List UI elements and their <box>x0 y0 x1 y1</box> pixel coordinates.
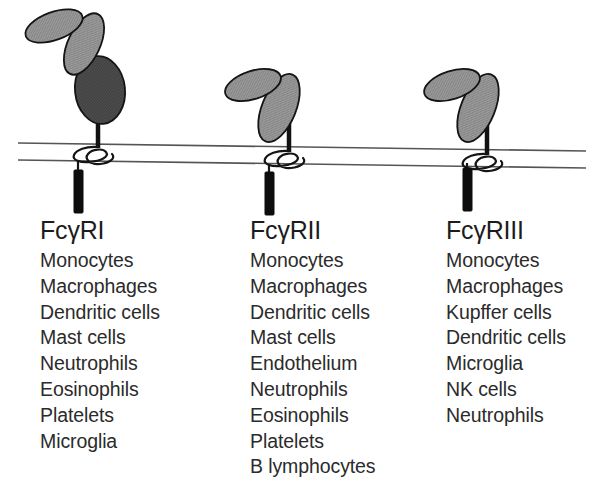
legend-column-fc-gamma-r3: FcγRIII Monocytes Macrophages Kupffer ce… <box>446 216 566 429</box>
list-item: Mast cells <box>40 325 160 351</box>
receptor-label-prefix-r1: Fc <box>40 216 67 244</box>
list-item: Neutrophils <box>446 403 566 429</box>
list-item: Macrophages <box>40 274 160 300</box>
receptor-label-fc-gamma-r3: FcγRIII <box>446 216 566 244</box>
fc-gamma-receptor-figure: FcγRI Monocytes Macrophages Dendritic ce… <box>0 0 590 491</box>
cell-type-list-r1: Monocytes Macrophages Dendritic cells Ma… <box>40 248 160 454</box>
receptor-label-prefix-r2: Fc <box>250 216 277 244</box>
list-item: Neutrophils <box>250 377 376 403</box>
list-item: NK cells <box>446 377 566 403</box>
list-item: Monocytes <box>446 248 566 274</box>
legend-column-fc-gamma-r1: FcγRI Monocytes Macrophages Dendritic ce… <box>40 216 160 454</box>
receptor-label-fc-gamma-r1: FcγRI <box>40 216 160 244</box>
list-item: Macrophages <box>250 274 376 300</box>
list-item: Platelets <box>250 429 376 455</box>
list-item: Dendritic cells <box>446 325 566 351</box>
legend-column-fc-gamma-r2: FcγRII Monocytes Macrophages Dendritic c… <box>250 216 376 480</box>
receptor-label-prefix-r3: Fc <box>446 216 473 244</box>
list-item: B lymphocytes <box>250 454 376 480</box>
cell-type-list-r2: Monocytes Macrophages Dendritic cells Ma… <box>250 248 376 480</box>
cell-type-list-r3: Monocytes Macrophages Kupffer cells Dend… <box>446 248 566 429</box>
list-item: Eosinophils <box>250 403 376 429</box>
list-item: Neutrophils <box>40 351 160 377</box>
list-item: Macrophages <box>446 274 566 300</box>
list-item: Dendritic cells <box>40 300 160 326</box>
list-item: Microglia <box>40 429 160 455</box>
receptor-label-fc-gamma-r2: FcγRII <box>250 216 376 244</box>
gamma-glyph-r2: γ <box>277 216 289 244</box>
receptor-label-suffix-r3: RIII <box>486 216 524 244</box>
list-item: Platelets <box>40 403 160 429</box>
list-item: Mast cells <box>250 325 376 351</box>
gamma-glyph-r3: γ <box>473 216 485 244</box>
receptor-label-suffix-r2: RII <box>290 216 321 244</box>
list-item: Microglia <box>446 351 566 377</box>
legend-columns: FcγRI Monocytes Macrophages Dendritic ce… <box>0 0 590 491</box>
list-item: Monocytes <box>40 248 160 274</box>
list-item: Kupffer cells <box>446 300 566 326</box>
list-item: Dendritic cells <box>250 300 376 326</box>
gamma-glyph-r1: γ <box>67 216 79 244</box>
list-item: Eosinophils <box>40 377 160 403</box>
list-item: Monocytes <box>250 248 376 274</box>
receptor-label-suffix-r1: RI <box>80 216 105 244</box>
list-item: Endothelium <box>250 351 376 377</box>
